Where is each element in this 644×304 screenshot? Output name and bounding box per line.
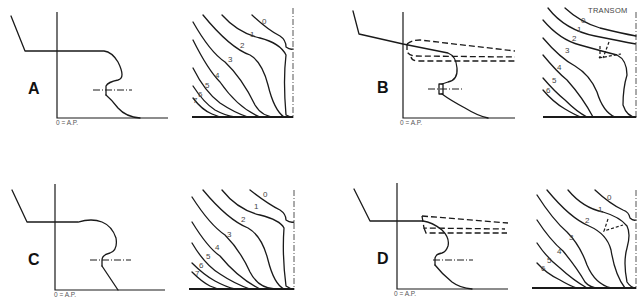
section-label-0: 0 [607, 193, 611, 202]
body-plan-b [515, 0, 644, 125]
section-label-2: 2 [241, 215, 245, 224]
section-0 [252, 15, 293, 49]
stern-profile-b [320, 0, 520, 125]
section-label-6: 6 [199, 261, 203, 270]
section-3 [192, 197, 275, 289]
body-plan-a [180, 0, 320, 125]
section-label-1: 1 [254, 202, 258, 211]
section-1 [222, 15, 293, 117]
panel-b-body-plan: TRANSOM 0 1 2 3 4 5 6 [515, 0, 644, 125]
section-4 [193, 40, 260, 117]
ap-label-b: 0 = A.P. [400, 119, 422, 126]
panel-c-body-plan: 0 1 2 3 4 5 6 7 [180, 150, 320, 304]
stern-profile-a [0, 0, 170, 125]
ap-label-c: 0 = A.P. [54, 291, 76, 298]
section-4 [537, 220, 599, 288]
panel-letter-b: B [377, 79, 389, 97]
body-plan-c [180, 150, 320, 304]
panel-d-profile: D 0 = A.P. [320, 150, 520, 304]
section-label-3: 3 [227, 230, 231, 239]
section-label-2: 2 [240, 41, 244, 50]
section-label-1: 1 [598, 205, 602, 214]
section-label-3: 3 [228, 55, 232, 64]
section-7 [193, 98, 224, 117]
panel-a-profile: A 0 = A.P. [0, 0, 170, 125]
section-label-1: 1 [577, 25, 581, 34]
stern-profile-c [0, 150, 170, 304]
stern-profile-d [320, 150, 520, 304]
section-label-3: 3 [565, 46, 569, 55]
section-label-0: 0 [581, 16, 585, 25]
section-4 [192, 222, 260, 289]
section-label-0: 0 [262, 17, 266, 26]
section-label-2: 2 [572, 34, 576, 43]
panel-letter-d: D [377, 250, 389, 268]
panel-letter-c: C [28, 251, 40, 269]
section-label-7: 7 [195, 269, 199, 278]
panel-a-body-plan: 0 1 2 3 4 5 6 7 [180, 0, 320, 125]
section-label-4: 4 [215, 243, 219, 252]
section-label-3: 3 [569, 233, 573, 242]
section-label-5: 5 [205, 81, 209, 90]
section-label-5: 5 [206, 252, 210, 261]
section-label-4: 4 [557, 63, 561, 72]
panel-c-profile: C 0 = A.P. [0, 150, 170, 304]
section-label-4: 4 [557, 247, 561, 256]
section-label-6: 6 [198, 90, 202, 99]
panel-d-body-plan: 0 1 2 3 4 5 6 [515, 150, 644, 304]
section-2 [203, 15, 284, 117]
panel-letter-a: A [28, 80, 40, 98]
ap-label-d: 0 = A.P. [394, 290, 416, 297]
section-label-5: 5 [547, 256, 551, 265]
section-label-6: 6 [546, 86, 550, 95]
section-label-1: 1 [250, 30, 254, 39]
section-label-2: 2 [585, 216, 589, 225]
section-label-7: 7 [193, 96, 197, 105]
section-label-5: 5 [552, 76, 556, 85]
section-label-4: 4 [215, 71, 219, 80]
section-label-0: 0 [263, 190, 267, 199]
panel-b-profile: B 0 = A.P. [320, 0, 520, 125]
ap-label-a: 0 = A.P. [56, 119, 78, 126]
section-label-6: 6 [541, 264, 545, 273]
body-plan-d [515, 150, 644, 304]
transom-label: TRANSOM [588, 6, 628, 15]
